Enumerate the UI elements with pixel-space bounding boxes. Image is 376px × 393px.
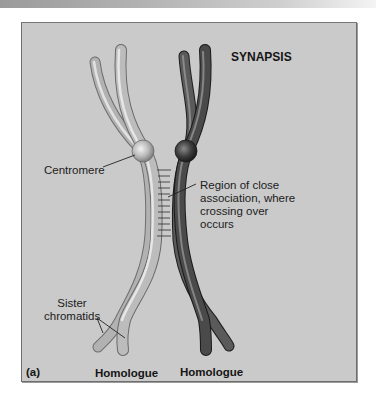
sister-label-line-1: Sister xyxy=(44,297,100,310)
left-centromere xyxy=(132,140,154,162)
sister-label-line-2: chromatids xyxy=(44,310,100,323)
region-label-line-4: occurs xyxy=(200,218,295,231)
region-label: Region of close association, where cross… xyxy=(200,179,295,231)
region-label-line-3: crossing over xyxy=(200,205,295,218)
left-homologue-chromosome xyxy=(94,50,157,350)
right-centromere xyxy=(175,140,197,162)
centromere-label: Centromere xyxy=(44,164,105,177)
homologue-label-right: Homologue xyxy=(180,366,243,379)
region-label-line-2: association, where xyxy=(200,192,295,205)
sister-chromatids-label: Sister chromatids xyxy=(44,297,100,323)
panel-label: (a) xyxy=(26,366,40,379)
figure-title: SYNAPSIS xyxy=(231,51,292,64)
centromere-leader-line xyxy=(103,155,135,167)
region-label-line-1: Region of close xyxy=(200,179,295,192)
homologue-label-left: Homologue xyxy=(95,367,158,380)
synapsis-diagram xyxy=(0,0,376,393)
